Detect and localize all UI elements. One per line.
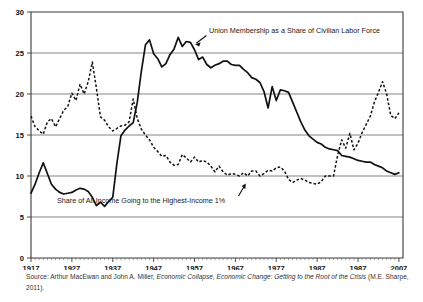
y-axis-tick-labels: 051015202530 (16, 8, 25, 263)
x-axis-tick-marks (31, 258, 399, 262)
annotation-leader-line-union (197, 36, 207, 44)
x-axis-tick-label: 1957 (186, 264, 203, 270)
x-axis-tick-label: 1987 (309, 264, 326, 270)
series-line-union-membership (31, 37, 399, 206)
y-axis-tick-label: 25 (16, 49, 25, 58)
annotation-arrowhead-union (195, 42, 201, 46)
x-axis-tick-label: 1917 (23, 264, 40, 270)
y-axis-tick-label: 20 (16, 90, 24, 99)
series-line-top-income-share (31, 62, 399, 184)
grid-lines (31, 53, 403, 217)
x-axis-tick-label: 2007 (390, 264, 407, 270)
chart-figure: 051015202530 191719271937194719571967197… (0, 0, 423, 302)
x-axis-tick-label: 1987 (350, 264, 367, 270)
x-axis-tick-label: 1977 (268, 264, 285, 270)
annotation-union-membership: Union Membership as a Share of Civilian … (195, 26, 380, 46)
y-axis-tick-label: 0 (20, 254, 24, 263)
source-note: Source: Arthur MacEwan and John A. Mille… (26, 272, 418, 293)
y-axis-tick-label: 10 (16, 172, 24, 181)
line-chart: 051015202530 191719271937194719571967197… (0, 0, 423, 270)
y-axis-tick-label: 30 (16, 8, 24, 17)
annotation-label-union-membership: Union Membership as a Share of Civilian … (209, 26, 380, 35)
x-axis-tick-labels: 1917192719371947195719671977198719872007 (23, 264, 408, 270)
y-axis-tick-label: 15 (16, 131, 25, 140)
x-axis-tick-label: 1937 (104, 264, 121, 270)
y-axis-tick-label: 5 (20, 213, 25, 222)
x-axis-tick-label: 1967 (227, 264, 244, 270)
annotation-label-top-income-share: Share of All Income Going to the Highest… (57, 196, 226, 205)
x-axis-tick-label: 1947 (145, 264, 162, 270)
source-authors: Arthur MacEwan and John A. Miller, (49, 273, 157, 280)
source-work-title: Economic Collapse, Economic Change: Gett… (156, 273, 366, 280)
x-axis-tick-label: 1927 (63, 264, 80, 270)
y-axis-tick-marks (27, 12, 31, 258)
source-label: Source: (26, 273, 49, 280)
annotation-top-income-share: Share of All Income Going to the Highest… (57, 183, 246, 205)
